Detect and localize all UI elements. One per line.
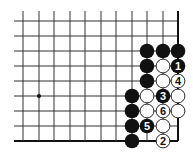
go-board: 143652 xyxy=(0,0,193,158)
move-number-label: 5 xyxy=(144,120,150,132)
black-stone xyxy=(125,89,140,104)
move-number-label: 3 xyxy=(160,90,166,102)
white-stone-move-4: 4 xyxy=(171,74,185,88)
white-stone-icon xyxy=(171,89,185,103)
move-number-label: 4 xyxy=(175,75,182,87)
black-stone-icon xyxy=(125,134,140,149)
black-stone xyxy=(140,44,155,59)
black-stone xyxy=(125,104,140,119)
white-stone xyxy=(171,104,185,118)
white-stone-icon xyxy=(140,104,154,118)
black-stone-move-1: 1 xyxy=(171,59,186,74)
black-stone-icon xyxy=(140,74,155,89)
white-stone xyxy=(156,74,170,88)
white-stone xyxy=(156,119,170,133)
black-stone-icon xyxy=(125,89,140,104)
black-stone-move-3: 3 xyxy=(156,89,171,104)
move-number-label: 2 xyxy=(160,135,166,147)
move-number-label: 6 xyxy=(160,105,166,117)
star-points xyxy=(37,94,41,98)
white-stone xyxy=(140,89,154,103)
black-stone-icon xyxy=(140,59,155,74)
black-stone xyxy=(140,74,155,89)
white-stone-icon xyxy=(156,59,170,73)
black-stone-icon xyxy=(125,119,140,134)
black-stone xyxy=(171,44,186,59)
white-stone-icon xyxy=(156,119,170,133)
white-stone-icon xyxy=(171,104,185,118)
black-stone-icon xyxy=(156,44,171,59)
black-stone-move-5: 5 xyxy=(140,119,155,134)
black-stone xyxy=(140,59,155,74)
black-stone xyxy=(125,119,140,134)
white-stone xyxy=(140,104,154,118)
white-stone-icon xyxy=(156,74,170,88)
black-stone-icon xyxy=(171,44,186,59)
star-point xyxy=(37,94,41,98)
black-stone-icon xyxy=(140,44,155,59)
grid-lines xyxy=(14,11,178,141)
white-stone-icon xyxy=(140,89,154,103)
white-stone xyxy=(171,89,185,103)
black-stone-icon xyxy=(125,104,140,119)
black-stone xyxy=(156,44,171,59)
white-stone-move-6: 6 xyxy=(156,104,170,118)
move-number-label: 1 xyxy=(175,60,181,72)
white-stone xyxy=(156,59,170,73)
black-stone xyxy=(125,134,140,149)
white-stone-move-2: 2 xyxy=(156,134,170,148)
